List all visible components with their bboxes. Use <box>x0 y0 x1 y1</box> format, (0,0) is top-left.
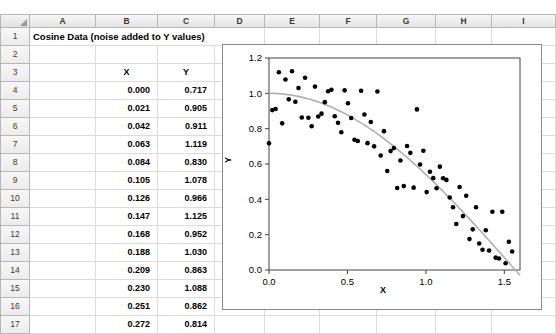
column-header-c[interactable]: C <box>158 14 215 28</box>
data-cell-y-8[interactable]: 0.830 <box>158 154 215 172</box>
cell-G17[interactable] <box>377 316 436 334</box>
row-header-8[interactable]: 8 <box>0 154 30 172</box>
data-point <box>500 209 505 214</box>
header-cell-x[interactable]: X <box>96 64 158 82</box>
column-header-g[interactable]: G <box>377 14 436 28</box>
column-header-e[interactable]: E <box>265 14 320 28</box>
data-cell-x-15[interactable]: 0.230 <box>96 280 158 298</box>
cell-E17[interactable] <box>265 316 320 334</box>
data-cell-x-7[interactable]: 0.063 <box>96 136 158 154</box>
cell-A12[interactable] <box>30 226 96 244</box>
row-header-12[interactable]: 12 <box>0 226 30 244</box>
data-point <box>497 256 502 261</box>
data-cell-y-9[interactable]: 1.078 <box>158 172 215 190</box>
row-header-7[interactable]: 7 <box>0 136 30 154</box>
data-point <box>418 162 423 167</box>
data-cell-y-11[interactable]: 1.125 <box>158 208 215 226</box>
select-all-corner[interactable] <box>0 14 30 28</box>
row-header-5[interactable]: 5 <box>0 100 30 118</box>
data-cell-y-13[interactable]: 1.030 <box>158 244 215 262</box>
y-tick-label: 0.4 <box>249 194 262 205</box>
y-tick-label: 0.8 <box>249 123 262 134</box>
data-cell-x-11[interactable]: 0.147 <box>96 208 158 226</box>
cell-A9[interactable] <box>30 172 96 190</box>
data-cell-y-5[interactable]: 0.905 <box>158 100 215 118</box>
cell-A7[interactable] <box>30 136 96 154</box>
cell-A10[interactable] <box>30 190 96 208</box>
cell-A17[interactable] <box>30 316 96 334</box>
column-header-h[interactable]: H <box>436 14 492 28</box>
cell-A11[interactable] <box>30 208 96 226</box>
data-point <box>395 186 400 191</box>
cell-B2[interactable] <box>96 46 158 64</box>
row-header-15[interactable]: 15 <box>0 280 30 298</box>
scatter-chart[interactable]: 0.00.20.40.60.81.01.20.00.51.01.5 Y X <box>222 44 542 310</box>
cell-A8[interactable] <box>30 154 96 172</box>
cell-I17[interactable] <box>492 316 556 334</box>
data-cell-x-6[interactable]: 0.042 <box>96 118 158 136</box>
row-header-16[interactable]: 16 <box>0 298 30 316</box>
data-point <box>444 178 449 183</box>
data-cell-x-9[interactable]: 0.105 <box>96 172 158 190</box>
row-header-1[interactable]: 1 <box>0 28 30 46</box>
row-header-17[interactable]: 17 <box>0 316 30 334</box>
data-cell-x-4[interactable]: 0.000 <box>96 82 158 100</box>
data-point <box>349 116 354 121</box>
cell-H17[interactable] <box>436 316 492 334</box>
row-header-13[interactable]: 13 <box>0 244 30 262</box>
data-cell-y-15[interactable]: 1.088 <box>158 280 215 298</box>
data-cell-x-17[interactable]: 0.272 <box>96 316 158 334</box>
data-cell-y-4[interactable]: 0.717 <box>158 82 215 100</box>
column-header-d[interactable]: D <box>215 14 265 28</box>
cell-A15[interactable] <box>30 280 96 298</box>
column-header-f[interactable]: F <box>320 14 377 28</box>
row-header-9[interactable]: 9 <box>0 172 30 190</box>
data-point <box>355 139 360 144</box>
row-header-11[interactable]: 11 <box>0 208 30 226</box>
data-cell-y-10[interactable]: 0.966 <box>158 190 215 208</box>
chart-svg: 0.00.20.40.60.81.01.20.00.51.01.5 <box>223 45 543 311</box>
data-cell-x-13[interactable]: 0.188 <box>96 244 158 262</box>
cell-F17[interactable] <box>320 316 377 334</box>
data-cell-y-14[interactable]: 0.863 <box>158 262 215 280</box>
cell-D17[interactable] <box>215 316 265 334</box>
data-point <box>484 228 489 233</box>
data-point <box>323 100 328 105</box>
data-cell-y-12[interactable]: 0.952 <box>158 226 215 244</box>
row-header-10[interactable]: 10 <box>0 190 30 208</box>
row-header-2[interactable]: 2 <box>0 46 30 64</box>
cell-A2[interactable] <box>30 46 96 64</box>
data-cell-y-6[interactable]: 0.911 <box>158 118 215 136</box>
data-cell-x-14[interactable]: 0.209 <box>96 262 158 280</box>
row-header-4[interactable]: 4 <box>0 82 30 100</box>
header-cell-y[interactable]: Y <box>158 64 215 82</box>
data-cell-x-10[interactable]: 0.126 <box>96 190 158 208</box>
data-cell-x-12[interactable]: 0.168 <box>96 226 158 244</box>
row-header-6[interactable]: 6 <box>0 118 30 136</box>
data-cell-x-16[interactable]: 0.251 <box>96 298 158 316</box>
column-header-b[interactable]: B <box>96 14 158 28</box>
data-point <box>434 186 439 191</box>
data-cell-y-17[interactable]: 0.814 <box>158 316 215 334</box>
data-point <box>503 261 508 266</box>
row-header-14[interactable]: 14 <box>0 262 30 280</box>
data-point <box>415 107 420 112</box>
row-header-3[interactable]: 3 <box>0 64 30 82</box>
column-header-a[interactable]: A <box>30 14 96 28</box>
sheet-title-cell[interactable]: Cosine Data (noise added to Y values) <box>30 28 245 46</box>
data-point <box>336 121 341 126</box>
data-point <box>319 111 324 116</box>
cell-A13[interactable] <box>30 244 96 262</box>
data-cell-y-16[interactable]: 0.862 <box>158 298 215 316</box>
cell-A14[interactable] <box>30 262 96 280</box>
data-cell-x-5[interactable]: 0.021 <box>96 100 158 118</box>
cell-A3[interactable] <box>30 64 96 82</box>
data-cell-x-8[interactable]: 0.084 <box>96 154 158 172</box>
column-header-i[interactable]: I <box>492 14 556 28</box>
data-cell-y-7[interactable]: 1.119 <box>158 136 215 154</box>
cell-C2[interactable] <box>158 46 215 64</box>
cell-A6[interactable] <box>30 118 96 136</box>
cell-A5[interactable] <box>30 100 96 118</box>
cell-A16[interactable] <box>30 298 96 316</box>
cell-A4[interactable] <box>30 82 96 100</box>
